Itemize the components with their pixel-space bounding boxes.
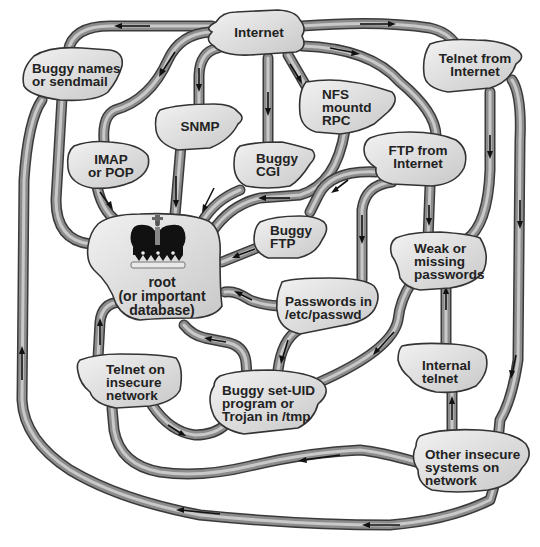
node-internal-telnet-label: Internal telnet [422, 359, 471, 385]
pipe-ftp-to-passwords [362, 182, 392, 280]
pipe-setuid-to-root [184, 325, 247, 375]
node-buggy-ftp-label: Buggy FTP [270, 224, 312, 250]
node-telnet-internet-label: Telnet from Internet [432, 52, 518, 78]
node-buggy-names-label: Buggy names or sendmail [32, 62, 121, 88]
node-root-label: root (or important database) [112, 275, 212, 317]
node-weak-passwords-label: Weak or missing passwords [414, 242, 485, 281]
node-telnet-insecure-label: Telnet on insecure network [106, 363, 165, 402]
node-imap-label: IMAP or POP [78, 153, 144, 179]
node-buggy-setuid-label: Buggy set-UID program or Trojan in /tmp [222, 384, 315, 423]
pipe-internet-to-nfs [288, 55, 306, 86]
node-ftp-internet-label: FTP from Internet [378, 144, 458, 170]
node-buggy-cgi-label: Buggy CGI [256, 152, 298, 178]
node-snmp-label: SNMP [170, 120, 230, 133]
pipe-telnet-to-other-systems [498, 80, 520, 440]
pipe-internet-to-telnet [302, 23, 456, 45]
pipe-telnet-to-weak-passwords [466, 92, 490, 240]
node-other-systems-label: Other insecure systems on network [425, 448, 520, 487]
node-passwords-etc-label: Passwords in /etc/passwd [285, 295, 372, 321]
node-internet-label: Internet [222, 26, 296, 39]
pipe-passwords-to-root [225, 292, 280, 306]
node-nfs-label: NFS mountd RPC [322, 88, 372, 127]
pipe-internet-to-snmp [199, 48, 218, 106]
